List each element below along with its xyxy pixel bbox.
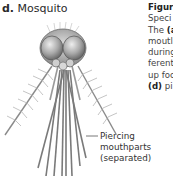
mouthparts xyxy=(38,66,86,176)
caption-line: during xyxy=(148,47,173,58)
right-antenna xyxy=(78,66,117,134)
panel-letter: d. xyxy=(2,2,14,15)
caption-text: pi xyxy=(162,81,173,91)
caption-line: up foo xyxy=(148,70,173,81)
callout-line: (separated) xyxy=(100,153,151,164)
caption-line: The (a xyxy=(148,25,173,36)
left-eye xyxy=(41,36,63,60)
callout-line: mouthparts xyxy=(100,142,151,153)
panel-title: Mosquito xyxy=(18,2,68,15)
caption-title: Figur xyxy=(148,2,173,13)
panel-label: d. Mosquito xyxy=(2,2,68,15)
caption-ref: (a xyxy=(167,25,173,35)
caption-text: The xyxy=(148,25,167,35)
caption-ref: (d) xyxy=(148,81,162,91)
caption-line: moutl xyxy=(148,36,173,47)
figure-caption: Figur Speci The (a moutl during ferent u… xyxy=(148,2,173,92)
right-eye xyxy=(63,36,85,60)
caption-line: ferent xyxy=(148,58,173,69)
left-antenna xyxy=(5,66,53,135)
caption-line: (d) pi xyxy=(148,81,173,92)
caption-line: Speci xyxy=(148,13,173,24)
mouthparts-callout: Piercing mouthparts (separated) xyxy=(100,131,151,164)
callout-line: Piercing xyxy=(100,131,151,142)
